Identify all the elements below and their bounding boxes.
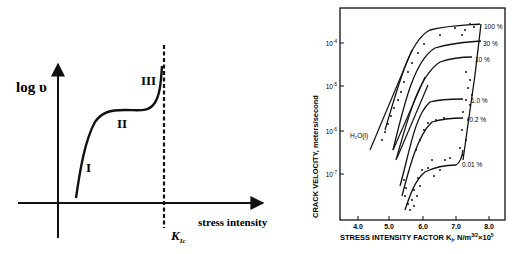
plot-frame — [340, 8, 505, 220]
schematic-chart: log υ I II III stress intensity KIc — [16, 45, 268, 245]
h2o-label: H₂O(l) — [350, 132, 368, 140]
crack-velocity-chart: 4.0 5.0 6.0 7.0 8.0 10-4 10-5 10-6 10-7 … — [311, 8, 505, 243]
svg-text:7.0: 7.0 — [451, 223, 461, 230]
scatter-points — [381, 23, 475, 211]
curve-100 — [385, 24, 480, 130]
svg-text:100 %: 100 % — [484, 23, 503, 30]
svg-text:1.0 %: 1.0 % — [471, 97, 488, 104]
y-axis-label: log υ — [16, 79, 47, 95]
region-label-i: I — [86, 160, 91, 175]
svg-text:10-6: 10-6 — [326, 127, 338, 135]
svg-text:10 %: 10 % — [475, 56, 490, 63]
svg-text:0.01 %: 0.01 % — [462, 161, 482, 168]
curve-02 — [402, 118, 463, 196]
svg-text:6.0: 6.0 — [418, 223, 428, 230]
x-tick-labels: 4.0 5.0 6.0 7.0 8.0 — [353, 223, 494, 230]
svg-text:10-4: 10-4 — [326, 39, 338, 47]
svg-text:*0.2 %: *0.2 % — [467, 116, 486, 123]
region-label-ii: II — [117, 116, 127, 131]
x-axis-label: stress intensity — [198, 216, 268, 228]
svg-text:10-5: 10-5 — [326, 82, 338, 90]
kic-label: KIc — [170, 228, 186, 245]
svg-text:4.0: 4.0 — [353, 223, 363, 230]
svg-text:5.0: 5.0 — [384, 223, 394, 230]
svg-text:10-7: 10-7 — [326, 170, 338, 178]
y-axis-label: CRACK VELOCITY, meters/second — [311, 95, 320, 218]
curve-001 — [405, 150, 463, 210]
region-label-iii: III — [141, 73, 156, 88]
curve-labels: 100 % 30 % 10 % 1.0 % *0.2 % 0.01 % — [462, 23, 503, 168]
svg-text:8.0: 8.0 — [484, 223, 494, 230]
y-tick-labels: 10-4 10-5 10-6 10-7 — [326, 39, 338, 178]
svg-text:30 %: 30 % — [483, 40, 498, 47]
figure-canvas: log υ I II III stress intensity KIc 4.0 … — [0, 0, 527, 254]
x-axis-label: STRESS INTENSITY FACTOR KI, N/m3/2×105 — [340, 232, 494, 243]
